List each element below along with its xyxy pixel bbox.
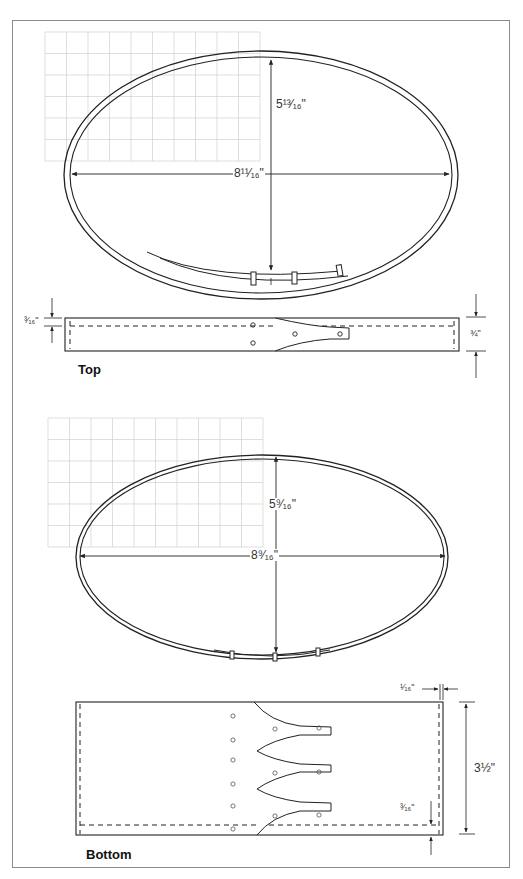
top-section-title: Top — [78, 363, 101, 376]
top-strip-thickness-dimension: ³⁄₁₆" — [24, 316, 38, 325]
top-strip-dimensions — [44, 294, 486, 378]
bottom-section-title: Bottom — [86, 848, 132, 861]
bottom-edge-offset-dimension: ¹⁄₁₆" — [400, 683, 414, 692]
top-dimension-lines — [72, 60, 449, 270]
top-width-dimension: 8¹¹⁄₁₆" — [233, 167, 265, 179]
bottom-strip-height-dimension: 3½" — [473, 762, 496, 774]
drawing-canvas — [0, 0, 523, 879]
bottom-strip-thickness-dimension: ³⁄₁₆" — [400, 803, 414, 812]
top-strip-height-dimension: ¾" — [470, 329, 481, 338]
bottom-scale-grid — [48, 418, 263, 547]
top-height-dimension: 5¹³⁄₁₆" — [275, 98, 307, 110]
bottom-width-dimension: 8⁹⁄₁₆" — [250, 549, 279, 561]
top-strip-pattern — [65, 318, 459, 351]
bottom-height-dimension: 5⁹⁄₁₆" — [268, 498, 297, 510]
bottom-strip-dimensions — [422, 684, 475, 855]
bottom-strip-pattern — [76, 702, 443, 835]
